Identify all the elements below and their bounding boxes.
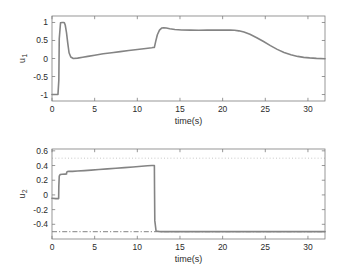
plot-svg-u2: 051015202530-0.4-0.200.20.40.6time(s)u2 — [0, 135, 342, 277]
y-tick-label: 1 — [43, 17, 48, 27]
y-tick-label: 0.5 — [36, 35, 48, 45]
svg-text:u1: u1 — [17, 54, 28, 63]
x-tick-label: 0 — [50, 242, 55, 252]
x-axis-label: time(s) — [175, 116, 203, 126]
x-tick-label: 10 — [133, 104, 143, 114]
y-axis-label: u1 — [17, 54, 28, 63]
x-tick-label: 15 — [175, 242, 185, 252]
x-tick-label: 25 — [261, 242, 271, 252]
x-tick-label: 30 — [303, 104, 313, 114]
x-tick-label: 25 — [261, 104, 271, 114]
y-tick-label: -0.2 — [33, 205, 48, 215]
y-tick-label: 0 — [43, 190, 48, 200]
plot-svg-u1: 051015202530-1-0.500.51time(s)u1 — [0, 0, 342, 135]
chart-panel-u1: 051015202530-1-0.500.51time(s)u1 — [0, 0, 342, 135]
y-tick-label: -0.5 — [33, 72, 48, 82]
y-tick-label: 0.4 — [36, 161, 48, 171]
data-series-u1 — [52, 22, 325, 94]
x-tick-label: 30 — [303, 242, 313, 252]
y-tick-label: 0.6 — [36, 146, 48, 156]
x-tick-label: 5 — [92, 242, 97, 252]
data-series-u2 — [52, 165, 325, 231]
x-tick-label: 10 — [133, 242, 143, 252]
figure-canvas: 051015202530-1-0.500.51time(s)u1 0510152… — [0, 0, 342, 277]
x-tick-label: 15 — [175, 104, 185, 114]
x-axis-label: time(s) — [175, 254, 203, 264]
x-tick-label: 0 — [50, 104, 55, 114]
x-tick-label: 5 — [92, 104, 97, 114]
y-tick-label: -0.4 — [33, 219, 48, 229]
y-tick-label: 0 — [43, 54, 48, 64]
y-tick-label: -1 — [40, 90, 48, 100]
y-axis-label: u2 — [17, 189, 28, 198]
x-tick-label: 20 — [218, 104, 228, 114]
svg-text:u2: u2 — [17, 189, 28, 198]
axis-frame — [52, 149, 325, 239]
x-tick-label: 20 — [218, 242, 228, 252]
axis-frame — [52, 16, 325, 101]
chart-panel-u2: 051015202530-0.4-0.200.20.40.6time(s)u2 — [0, 135, 342, 277]
y-tick-label: 0.2 — [36, 175, 48, 185]
